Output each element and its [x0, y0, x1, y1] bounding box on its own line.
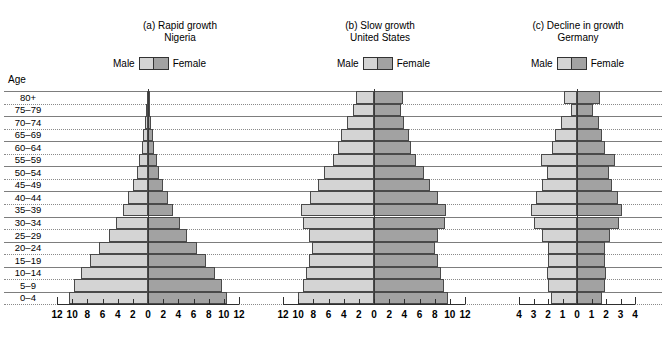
x-axis-tick	[635, 297, 636, 304]
x-axis-tick-label: 2	[603, 309, 609, 320]
x-axis-tick-label: 2	[545, 309, 551, 320]
panel-a-title: (a) Rapid growth	[90, 20, 270, 32]
bar-female	[374, 242, 435, 255]
x-axis-tick-label: 8	[85, 309, 91, 320]
bar-male	[303, 217, 374, 230]
age-group-label: 25–29	[0, 231, 56, 241]
age-group-label: 20–24	[0, 243, 56, 253]
x-axis-tick	[621, 299, 622, 304]
bar-male	[547, 267, 577, 280]
center-axis-line	[577, 89, 578, 304]
legend-male-label-a: Male	[113, 58, 135, 69]
bar-female	[577, 141, 605, 154]
bar-female	[374, 166, 424, 179]
bar-female	[577, 292, 602, 305]
x-axis-tick	[118, 299, 119, 304]
legend-united-states: Male Female	[337, 57, 430, 70]
x-axis-tick-label: 4	[516, 309, 522, 320]
legend-swatch-female-b	[377, 58, 392, 69]
x-axis-line	[57, 304, 239, 305]
bar-female	[148, 166, 159, 179]
x-axis-tick	[178, 299, 179, 304]
x-axis-tick	[606, 299, 607, 304]
legend-swatch-a	[139, 57, 169, 70]
legend-swatch-female-c	[571, 58, 586, 69]
x-axis-tick-label: 3	[531, 309, 537, 320]
bar-male	[298, 292, 374, 305]
x-axis-tick	[224, 299, 225, 304]
bar-female	[577, 154, 615, 167]
bar-female	[374, 279, 444, 292]
legend-swatch-male-c	[558, 58, 572, 69]
x-axis-tick-label: 0	[371, 309, 377, 320]
bar-female	[577, 166, 609, 179]
bar-female	[374, 104, 401, 117]
bar-female	[374, 116, 404, 129]
x-axis-tick-label: 6	[100, 309, 106, 320]
x-axis-tick-label: 6	[417, 309, 423, 320]
age-group-label: 50–54	[0, 168, 56, 178]
x-axis-tick-label: 6	[326, 309, 332, 320]
x-axis-tick-label: 4	[402, 309, 408, 320]
bar-female	[374, 154, 416, 167]
bar-female	[577, 254, 605, 267]
bar-male	[356, 91, 374, 104]
bar-male	[333, 154, 374, 167]
bar-male	[551, 292, 577, 305]
bar-male	[541, 154, 577, 167]
panel-b-title: (b) Slow growth	[290, 20, 470, 32]
bar-male	[90, 254, 148, 267]
bar-male	[312, 242, 374, 255]
bar-female	[577, 279, 605, 292]
x-axis-tick	[239, 297, 240, 304]
x-axis-tick	[435, 299, 436, 304]
bar-female	[374, 91, 403, 104]
bar-male	[347, 116, 374, 129]
panel-b-subtitle: United States	[290, 32, 470, 44]
x-axis-line	[283, 304, 465, 305]
center-axis-line	[374, 89, 375, 304]
x-axis-tick	[283, 297, 284, 304]
x-axis-tick	[329, 299, 330, 304]
legend-female-label-b: Female	[397, 58, 430, 69]
x-axis-tick	[209, 299, 210, 304]
bar-female	[374, 191, 438, 204]
x-axis-tick	[577, 299, 578, 304]
bar-female	[577, 91, 600, 104]
legend-male-label-b: Male	[337, 58, 359, 69]
age-group-label: 5–9	[0, 281, 56, 291]
x-axis-tick-label: 10	[67, 309, 78, 320]
x-axis-tick	[133, 299, 134, 304]
bar-female	[577, 191, 618, 204]
bar-female	[577, 242, 605, 255]
bar-male	[309, 254, 374, 267]
bar-female	[577, 116, 599, 129]
bar-male	[536, 191, 577, 204]
bar-female	[374, 204, 446, 217]
bar-male	[301, 204, 374, 217]
bar-female	[577, 204, 622, 217]
x-axis-tick-label: 0	[574, 309, 580, 320]
bar-female	[374, 179, 430, 192]
panel-title-nigeria: (a) Rapid growth Nigeria	[90, 20, 270, 44]
legend-germany: Male Female	[531, 57, 624, 70]
bar-female	[148, 179, 163, 192]
bar-female	[577, 217, 619, 230]
bar-female	[374, 292, 448, 305]
bar-female	[374, 254, 438, 267]
age-group-label: 45–49	[0, 180, 56, 190]
x-axis-tick	[534, 299, 535, 304]
legend-swatch-b	[363, 57, 393, 70]
x-axis-tick-label: 12	[277, 309, 288, 320]
bar-female	[577, 129, 602, 142]
x-axis-tick-label: 4	[341, 309, 347, 320]
age-group-label: 0–4	[0, 293, 56, 303]
panel-c-subtitle: Germany	[490, 32, 666, 44]
legend-female-label-c: Female	[591, 58, 624, 69]
bar-male	[338, 141, 374, 154]
bar-male	[123, 204, 148, 217]
bar-male	[116, 217, 148, 230]
x-axis-tick-label: 2	[356, 309, 362, 320]
bar-male	[303, 279, 374, 292]
bar-male	[310, 191, 374, 204]
